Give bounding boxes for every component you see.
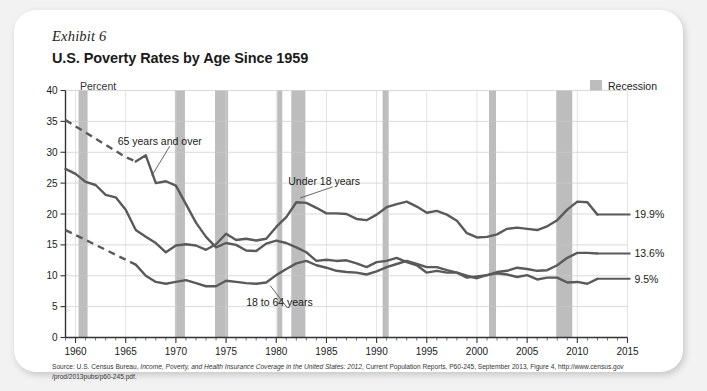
recession-swatch-icon [590, 80, 602, 92]
chart-legend: Recession [590, 80, 657, 92]
screenshot-root: Exhibit 6 U.S. Poverty Rates by Age Sinc… [0, 0, 707, 391]
legend-item-recession: Recession [608, 80, 657, 92]
y-axis-unit-label: Percent [80, 80, 116, 92]
source-publication-title: Income, Poverty, and Health Insurance Co… [140, 363, 362, 370]
source-prefix: Source: U.S. Census Bureau, [52, 363, 140, 370]
page-title: U.S. Poverty Rates by Age Since 1959 [52, 50, 308, 66]
exhibit-card: Exhibit 6 U.S. Poverty Rates by Age Sinc… [14, 10, 683, 372]
exhibit-number: Exhibit 6 [52, 28, 107, 45]
source-suffix: , Current Population Reports, P60-245, S… [362, 363, 624, 370]
source-url-continued: /prod/2013pubs/p60-245.pdf. [52, 373, 137, 380]
source-note: Source: U.S. Census Bureau, Income, Pove… [52, 362, 677, 382]
